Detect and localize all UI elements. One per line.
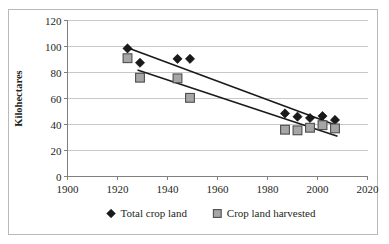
- data-point: [123, 54, 132, 63]
- series-crop-land-harvested: [123, 54, 339, 135]
- data-point: [123, 44, 132, 53]
- legend-label: Total crop land: [121, 207, 188, 219]
- y-axis-title-label: Kilohectares: [13, 70, 24, 126]
- data-point: [318, 121, 327, 130]
- series-total-crop-land: [123, 44, 340, 125]
- y-axis-title: Kilohectares: [13, 70, 24, 126]
- data-point: [280, 109, 289, 118]
- data-point: [281, 125, 290, 134]
- data-point: [173, 74, 182, 83]
- chart-figure: 020406080100120 190019201940196019802000…: [0, 0, 389, 244]
- x-tick-label-1920: 1920: [107, 183, 130, 195]
- y-tick-label-100: 100: [45, 41, 62, 53]
- x-tick-label-1960: 1960: [207, 183, 230, 195]
- data-point: [135, 58, 144, 67]
- diamond-marker-icon: [107, 209, 116, 218]
- data-point: [136, 73, 145, 82]
- legend-item-total-crop-land: Total crop land: [107, 207, 188, 219]
- y-tick-label-60: 60: [51, 93, 63, 105]
- data-point: [185, 54, 194, 63]
- gridlines-group: [68, 21, 368, 177]
- x-axis-tick-labels: 1900192019401960198020002020: [57, 177, 380, 195]
- y-tick-label-20: 20: [51, 145, 63, 157]
- data-point: [293, 126, 302, 135]
- data-point: [306, 123, 315, 132]
- x-tick-label-1940: 1940: [157, 183, 180, 195]
- y-axis-tick-labels: 020406080100120: [45, 15, 68, 183]
- legend-item-crop-land-harvested: Crop land harvested: [213, 207, 315, 219]
- x-tick-label-2020: 2020: [357, 183, 380, 195]
- y-tick-label-0: 0: [56, 171, 62, 183]
- y-tick-label-80: 80: [51, 67, 63, 79]
- x-tick-label-1900: 1900: [57, 183, 80, 195]
- data-point: [173, 54, 182, 63]
- y-tick-label-40: 40: [51, 119, 63, 131]
- chart-legend: Total crop landCrop land harvested: [107, 207, 316, 219]
- data-point: [293, 112, 302, 121]
- crop-land-scatter-chart: 020406080100120 190019201940196019802000…: [0, 0, 389, 244]
- legend-label: Crop land harvested: [227, 207, 316, 219]
- data-point: [331, 124, 340, 133]
- data-point: [186, 93, 195, 102]
- trendline-series-0: [128, 48, 338, 126]
- y-tick-label-120: 120: [45, 15, 62, 27]
- square-marker-icon: [213, 210, 221, 218]
- x-tick-label-1980: 1980: [257, 183, 280, 195]
- x-tick-label-2000: 2000: [307, 183, 330, 195]
